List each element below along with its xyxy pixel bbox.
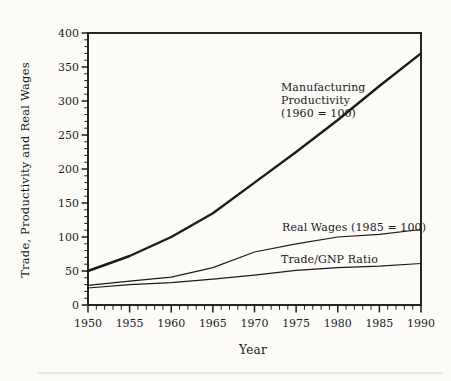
- trade-gnp-ratio-label: Trade/GNP Ratio: [281, 253, 378, 266]
- y-tick-label: 400: [58, 27, 79, 40]
- x-tick-label: 1950: [74, 317, 102, 330]
- scan-artifact-line: [38, 372, 443, 374]
- figure: 0501001502002503003504001950195519601965…: [0, 0, 451, 381]
- y-tick-label: 200: [58, 163, 79, 176]
- trade-gnp-ratio-line: [88, 264, 421, 289]
- x-tick-label: 1955: [116, 317, 144, 330]
- y-tick-label: 350: [58, 61, 79, 74]
- x-tick-label: 1985: [365, 317, 393, 330]
- x-tick-label: 1960: [157, 317, 185, 330]
- y-axis-title: Trade, Productivity and Real Wages: [18, 62, 32, 278]
- y-tick-label: 150: [58, 197, 79, 210]
- manufacturing-productivity-label: Manufacturing Productivity (1960 = 100): [281, 81, 366, 120]
- x-tick-label: 1965: [199, 317, 227, 330]
- y-tick-label: 300: [58, 95, 79, 108]
- x-tick-label: 1990: [407, 317, 435, 330]
- y-tick-label: 250: [58, 129, 79, 142]
- x-axis-title: Year: [239, 343, 267, 357]
- x-tick-label: 1970: [241, 317, 269, 330]
- x-tick-label: 1975: [282, 317, 310, 330]
- real-wages-label: Real Wages (1985 = 100): [282, 221, 426, 234]
- x-tick-label: 1980: [324, 317, 352, 330]
- manufacturing-productivity-line: [88, 53, 421, 271]
- y-tick-label: 50: [65, 265, 79, 278]
- y-tick-label: 100: [58, 231, 79, 244]
- line-chart: 0501001502002503003504001950195519601965…: [0, 0, 451, 381]
- y-tick-label: 0: [72, 299, 79, 312]
